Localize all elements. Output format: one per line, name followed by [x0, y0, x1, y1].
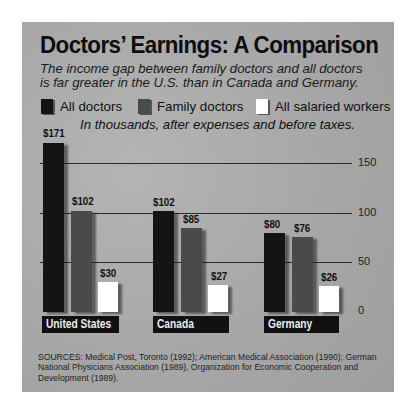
value-label: $85 [183, 213, 199, 225]
value-label: $30 [100, 267, 116, 279]
bar-germany-family-doctors [292, 237, 313, 312]
gridline-150 [40, 163, 352, 164]
legend-item-salaried-workers: All salaried workers [256, 98, 390, 114]
y-tick-0: 0 [358, 304, 364, 316]
legend-item-family-doctors: Family doctors [138, 98, 243, 114]
value-label: $26 [321, 271, 337, 283]
value-label: $27 [211, 270, 227, 282]
value-label: $102 [153, 196, 175, 208]
y-tick-50: 50 [358, 255, 370, 267]
chart-subtitle: The income gap between family doctors an… [40, 62, 370, 90]
legend-swatch-icon [138, 99, 150, 114]
bar-canada-all-doctors [153, 211, 174, 312]
bar-germany-salaried-workers [319, 286, 339, 312]
sources-note: SOURCES: Medical Post, Toronto (1992); A… [38, 352, 383, 383]
value-label: $102 [72, 195, 94, 207]
category-label-canada: Canada [153, 316, 229, 333]
units-note: In thousands, after expenses and before … [80, 117, 355, 132]
legend-item-all-doctors: All doctors [41, 98, 122, 114]
legend-swatch-icon [256, 99, 268, 114]
bar-us-all-doctors [43, 143, 64, 312]
value-label: $171 [43, 127, 65, 139]
value-label: $76 [294, 222, 310, 234]
y-tick-150: 150 [358, 156, 376, 168]
category-label-germany: Germany [264, 316, 339, 333]
y-tick-100: 100 [358, 206, 376, 218]
bar-canada-family-doctors [181, 228, 202, 312]
chart-title: Doctors’ Earnings: A Comparison [40, 31, 378, 59]
bar-germany-all-doctors [264, 233, 285, 312]
bar-us-family-doctors [71, 211, 92, 312]
value-label: $80 [264, 218, 280, 230]
legend-swatch-icon [41, 99, 53, 114]
bar-us-salaried-workers [98, 282, 118, 312]
bar-canada-salaried-workers [208, 285, 228, 312]
category-label-us: United States [42, 316, 119, 333]
